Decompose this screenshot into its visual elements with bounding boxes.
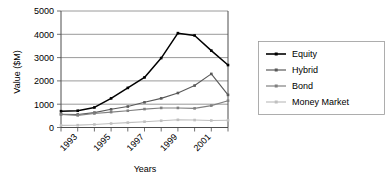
series-group — [60, 32, 230, 127]
data-point-marker — [227, 64, 230, 67]
data-point-marker — [160, 97, 163, 100]
data-point-marker — [127, 109, 130, 112]
data-point-marker — [227, 99, 230, 102]
data-point-marker — [210, 104, 213, 107]
series-line — [61, 33, 228, 111]
data-point-marker — [76, 124, 79, 127]
y-tick-label: 0 — [49, 123, 54, 133]
y-tick-label: 5000 — [34, 6, 54, 16]
data-point-marker — [60, 113, 63, 116]
y-tick-label: 4000 — [34, 30, 54, 40]
data-point-marker — [93, 123, 96, 126]
y-axis-ticks: 010002000300040005000 — [34, 6, 61, 133]
data-point-marker — [93, 106, 96, 109]
y-tick-label: 3000 — [34, 53, 54, 63]
data-point-marker — [127, 105, 130, 108]
data-point-marker — [60, 110, 63, 113]
x-axis-title: Years — [134, 164, 157, 174]
data-point-marker — [227, 94, 230, 97]
x-tick-label: 1995 — [91, 132, 112, 153]
data-point-marker — [193, 119, 196, 122]
legend-label: Money Market — [292, 97, 350, 107]
data-point-marker — [93, 112, 96, 115]
data-point-marker — [76, 114, 79, 117]
legend-swatch-marker — [275, 85, 278, 88]
data-point-marker — [110, 108, 113, 111]
y-tick-label: 1000 — [34, 100, 54, 110]
data-point-marker — [227, 119, 230, 122]
data-point-marker — [60, 124, 63, 127]
data-point-marker — [210, 73, 213, 76]
data-point-marker — [110, 111, 113, 114]
legend: EquityHybridBondMoney Market — [259, 42, 385, 115]
data-point-marker — [210, 49, 213, 52]
data-point-marker — [177, 92, 180, 95]
x-tick-label: 1999 — [158, 132, 179, 153]
data-point-marker — [193, 107, 196, 110]
data-point-marker — [160, 57, 163, 60]
legend-label: Hybrid — [292, 65, 318, 75]
data-point-marker — [110, 97, 113, 100]
data-point-marker — [127, 121, 130, 124]
data-point-marker — [143, 108, 146, 111]
data-point-marker — [177, 107, 180, 110]
data-point-marker — [177, 119, 180, 122]
legend-label: Equity — [292, 49, 318, 59]
data-point-marker — [177, 32, 180, 35]
y-axis-title: Value ($M) — [12, 50, 22, 93]
gridlines — [61, 11, 228, 104]
legend-swatch-marker — [275, 101, 278, 104]
legend-label: Bond — [292, 81, 313, 91]
x-tick-label: 1993 — [58, 132, 79, 153]
x-axis-ticks: 19931995199719992001 — [58, 128, 228, 154]
data-point-marker — [76, 109, 79, 112]
y-tick-label: 2000 — [34, 76, 54, 86]
legend-swatch-marker — [275, 53, 278, 56]
data-point-marker — [210, 119, 213, 122]
x-tick-label: 2001 — [191, 132, 212, 153]
series-equity — [60, 32, 230, 113]
data-point-marker — [143, 76, 146, 79]
series-money-market — [60, 119, 230, 127]
chart-page: 010002000300040005000 199319951997199920… — [0, 0, 391, 181]
x-tick-label: 1997 — [125, 132, 146, 153]
data-point-marker — [127, 87, 130, 90]
data-point-marker — [193, 34, 196, 37]
data-point-marker — [160, 107, 163, 110]
data-point-marker — [193, 84, 196, 87]
data-point-marker — [143, 120, 146, 123]
legend-swatch-marker — [275, 69, 278, 72]
data-point-marker — [160, 119, 163, 122]
data-point-marker — [110, 122, 113, 125]
data-point-marker — [143, 101, 146, 104]
line-chart: 010002000300040005000 199319951997199920… — [0, 0, 391, 181]
